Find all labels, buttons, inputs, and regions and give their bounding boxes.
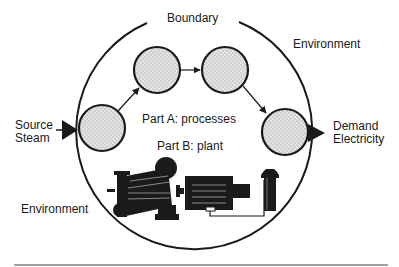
generator-icon [185, 176, 250, 210]
generator-terminal [206, 207, 215, 211]
demand-line2: Electricity [333, 133, 384, 146]
demand-arrow-icon [308, 124, 325, 142]
environment-label-bottom: Environment [21, 203, 88, 216]
demand-label: Demand Electricity [333, 120, 384, 146]
process-node-2 [134, 47, 180, 93]
part-a-label: Part A: processes [142, 113, 236, 126]
process-node-4 [262, 109, 308, 155]
turbine-icon [107, 157, 184, 220]
environment-label-top: Environment [293, 38, 360, 51]
boundary-label: Boundary [167, 12, 218, 25]
source-arrow-icon [56, 120, 78, 140]
process-node-3 [202, 47, 248, 93]
source-line2: Steam [15, 132, 53, 145]
system-boundary-diagram: Boundary Environment Source Steam Demand… [0, 0, 399, 267]
part-b-label: Part B: plant [157, 140, 223, 153]
source-label: Source Steam [15, 119, 53, 145]
process-node-1 [79, 105, 125, 151]
